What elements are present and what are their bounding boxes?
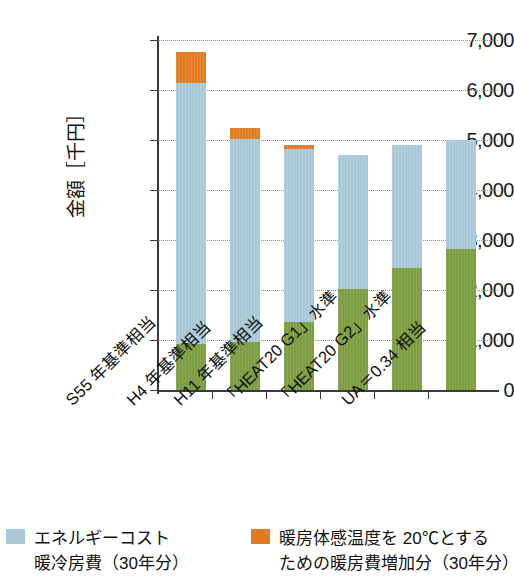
plot-area — [158, 40, 498, 390]
bar-segment-orange — [284, 145, 314, 149]
legend-swatch-energy-cost — [6, 529, 25, 544]
bar-segment-blue — [446, 140, 476, 249]
bar-segment-blue — [176, 83, 206, 345]
x-tick-mark — [374, 390, 375, 399]
x-tick-mark — [428, 390, 429, 399]
y-axis-title: 金額［千円］ — [66, 81, 87, 241]
gridline-7000 — [158, 40, 498, 41]
bar-segment-blue — [284, 149, 314, 323]
bar-segment-blue — [338, 155, 368, 289]
legend-swatch-heating-increase — [251, 529, 270, 544]
bar-segment-orange — [176, 52, 206, 83]
x-tick-mark — [266, 390, 267, 399]
legend-label-energy-cost: エネルギーコスト 暖冷房費（30年分） — [34, 526, 189, 576]
legend-label-heating-increase: 暖房体感温度を 20℃とする ための暖房費増加分（30年分） — [279, 526, 514, 576]
bar-segment-green — [446, 249, 476, 390]
bar-segment-blue — [392, 145, 422, 268]
x-axis-line — [157, 390, 499, 392]
bar-segment-blue — [230, 139, 260, 342]
gridline-6000 — [158, 90, 498, 91]
x-tick-mark — [320, 390, 321, 399]
legend-item-heating-increase[interactable]: 暖房体感温度を 20℃とする ための暖房費増加分（30年分） — [251, 526, 514, 576]
chart-legend: エネルギーコスト 暖冷房費（30年分） 暖房体感温度を 20℃とする ための暖房… — [0, 524, 514, 582]
stacked-bar-chart: 金額［千円］ 7,000 6,000 5,000 4,000 3,000 2,0… — [0, 0, 514, 583]
bar-segment-orange — [230, 128, 260, 139]
legend-item-energy-cost[interactable]: エネルギーコスト 暖冷房費（30年分） — [6, 526, 189, 576]
x-tick-mark — [212, 390, 213, 399]
